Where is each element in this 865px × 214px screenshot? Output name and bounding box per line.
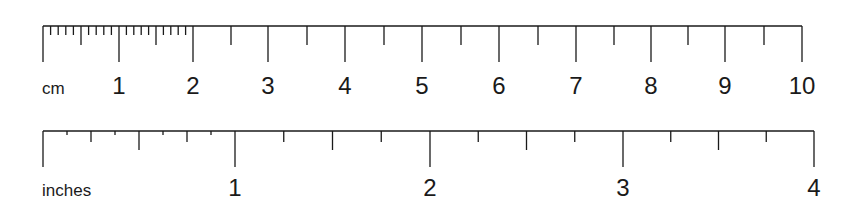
inch-number-label: 2 [423,174,436,201]
cm-ticks [43,26,802,62]
ruler-diagram: cm 12345678910 inches 1234 [0,0,865,214]
cm-number-labels: 12345678910 [112,72,815,99]
cm-number-label: 2 [186,72,199,99]
inch-unit-label: inches [42,181,91,200]
inch-ticks [43,131,814,167]
cm-number-label: 4 [338,72,351,99]
inch-ruler: inches 1234 [42,131,821,201]
cm-number-label: 5 [415,72,428,99]
inch-number-labels: 1234 [228,174,820,201]
cm-number-label: 9 [718,72,731,99]
cm-number-label: 7 [569,72,582,99]
inch-number-label: 1 [228,174,241,201]
cm-number-label: 1 [112,72,125,99]
cm-number-label: 3 [261,72,274,99]
cm-unit-label: cm [42,79,65,98]
cm-number-label: 10 [789,72,816,99]
inch-number-label: 4 [807,174,820,201]
cm-number-label: 8 [644,72,657,99]
cm-number-label: 6 [492,72,505,99]
centimeter-ruler: cm 12345678910 [42,26,815,99]
inch-number-label: 3 [616,174,629,201]
